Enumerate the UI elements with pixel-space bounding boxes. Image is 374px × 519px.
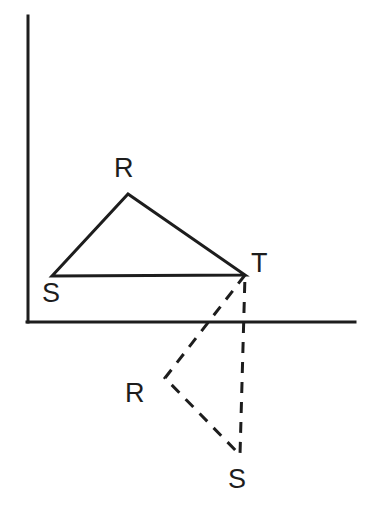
vertex-label-preimage-s: S bbox=[42, 280, 60, 307]
vertex-label-image-s: S bbox=[228, 466, 246, 493]
vertex-label-preimage-r: R bbox=[114, 155, 134, 182]
triangle-preimage-rst bbox=[52, 194, 245, 276]
vertex-label-preimage-t: T bbox=[251, 250, 268, 277]
geometry-diagram: R S T R S bbox=[0, 0, 374, 519]
triangle-image-rst bbox=[165, 275, 245, 455]
vertex-label-image-r: R bbox=[125, 380, 145, 407]
geometry-canvas bbox=[0, 0, 374, 519]
